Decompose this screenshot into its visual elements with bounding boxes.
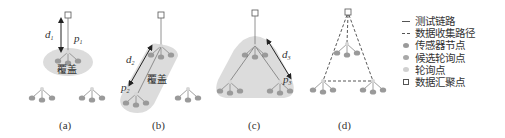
legend-label: 数据汇聚点: [415, 76, 465, 88]
sink-node-icon: [252, 10, 258, 16]
sensor-cluster: [79, 87, 105, 103]
legend-item-test-link: 测试链路: [400, 15, 475, 27]
panel-label: (b): [152, 119, 165, 132]
sink-node-icon: [345, 9, 351, 15]
distance-label: d2: [126, 53, 135, 66]
distance-label: d1: [45, 28, 54, 41]
coverage-label: 覆盖: [147, 73, 167, 85]
sink-node-icon: [400, 79, 412, 85]
panel-d: (d): [310, 9, 386, 132]
sensor-cluster: [310, 79, 336, 95]
legend-label: 候选轮询点: [415, 52, 465, 64]
data-collection-path: [349, 15, 373, 81]
distance-label: d3: [282, 48, 291, 61]
panel-label: (d): [338, 119, 351, 132]
polling-point-label: p3: [282, 73, 292, 86]
polling-point-label: p2: [120, 81, 130, 94]
sensor-node-icon: [400, 43, 412, 48]
legend-item-candidate-polling-point: 候选轮询点: [400, 52, 475, 64]
legend-item-sensor-node: 传感器节点: [400, 39, 475, 51]
data-collection-path: [323, 15, 347, 81]
candidate-polling-point-icon: [400, 55, 412, 60]
polling-point-label: p1: [73, 32, 83, 45]
dashed-line-icon: [400, 33, 412, 34]
sensor-cluster: [29, 87, 55, 103]
coverage-label: 覆盖: [57, 63, 77, 75]
polling-point-icon: [400, 67, 412, 72]
sink-node-icon: [158, 12, 164, 18]
legend-item-polling-point: 轮询点: [400, 64, 475, 76]
panel-b: d2 p2 覆盖 (b): [120, 12, 201, 132]
legend-item-sink-node: 数据汇聚点: [400, 76, 475, 88]
legend-label: 数据收集路径: [415, 27, 475, 39]
legend-label: 轮询点: [415, 64, 445, 76]
sensor-cluster: [334, 42, 360, 58]
legend-label: 测试链路: [415, 15, 455, 27]
solid-line-icon: [400, 21, 412, 22]
panel-label: (a): [59, 119, 72, 132]
sensor-cluster: [175, 87, 201, 103]
panel-a: d1 p1 覆盖 (a): [29, 12, 105, 132]
sink-node-icon: [65, 12, 71, 18]
data-collection-path: [347, 15, 348, 43]
panel-label: (c): [248, 119, 261, 132]
legend-label: 传感器节点: [415, 39, 465, 51]
legend-item-data-collection-path: 数据收集路径: [400, 27, 475, 39]
panel-c: d3 p3 (c): [216, 10, 294, 132]
legend: 测试链路 数据收集路径 传感器节点 候选轮询点 轮询点 数据汇聚点: [400, 15, 475, 88]
